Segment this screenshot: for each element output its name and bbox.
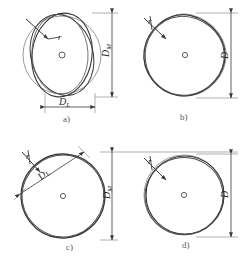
panel-d-dimension-label-d: D: [219, 191, 230, 198]
panel-a-center-mark: [59, 52, 65, 58]
panel-b-profile-trace-1: [140, 11, 229, 100]
panel-c-center-mark: [60, 193, 65, 198]
figure-svg: [0, 0, 247, 260]
panel-c-letter: c): [66, 242, 73, 252]
panel-b-center-mark: [182, 52, 187, 57]
panel-a-radius-label: r: [58, 32, 62, 42]
panel-b-dimension-label-d: D: [219, 52, 230, 59]
panel-a-reference-circle: [23, 16, 101, 94]
panel-d-letter: d): [182, 240, 190, 250]
panel-a-dimension-label-dm: DM: [100, 44, 113, 57]
panel-d-radius-label: r: [148, 156, 152, 166]
panel-d-center-mark: [181, 192, 186, 197]
panel-c-dimension-label-dm: DM: [101, 186, 114, 199]
panel-b-profile-trace-2: [139, 10, 231, 102]
panel-a-radius-leader: [26, 19, 48, 39]
panel-c-radius-label: r: [26, 151, 30, 161]
roundness-deviation-figure: r DM DL a) r D b) r DL DM c) r D d): [0, 0, 247, 260]
panel-a-letter: a): [63, 114, 70, 124]
panel-a-profile-trace-1: [26, 9, 97, 101]
panel-a-dimension-label-dl: DL: [59, 96, 70, 109]
panel-b-radius-label: r: [148, 16, 152, 26]
panel-a-profile-trace-3: [30, 13, 90, 96]
panel-b-letter: b): [180, 112, 188, 122]
panel-a-profile-trace-2: [21, 7, 103, 103]
